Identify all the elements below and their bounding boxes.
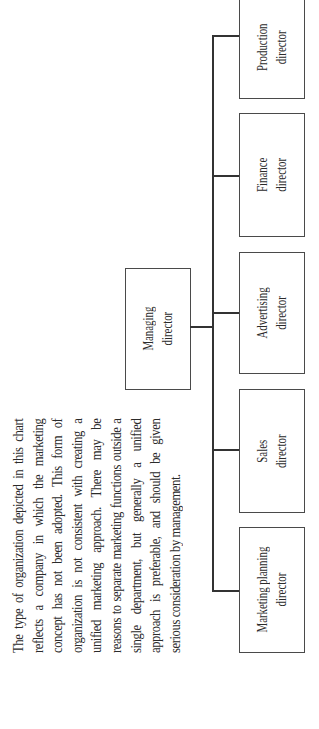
finance-director-box: Finance director xyxy=(239,113,305,237)
managing-director-box: Managing director xyxy=(125,268,191,390)
org-chart-page: The type of organization depicted in thi… xyxy=(0,0,319,729)
box-label-line2: director xyxy=(272,547,291,633)
drop-advertising xyxy=(212,312,239,314)
drop-marketing-planning xyxy=(212,590,239,592)
drop-finance xyxy=(212,175,239,177)
drop-sales xyxy=(212,449,239,451)
managing-director-line2: director xyxy=(158,307,177,351)
managing-director-line1: Managing xyxy=(139,307,158,351)
box-label-line1: Advertising xyxy=(253,287,272,338)
box-label-line1: Finance xyxy=(253,158,272,192)
box-label-line2: director xyxy=(272,434,291,468)
box-label-line1: Sales xyxy=(253,434,272,468)
box-label-line1: Marketing planning xyxy=(253,547,272,633)
advertising-director-box: Advertising director xyxy=(239,252,305,374)
production-director-box: Production director xyxy=(239,0,305,99)
box-label-line2: director xyxy=(272,158,291,192)
marketing-planning-director-box: Marketing planning director xyxy=(239,527,305,653)
sales-director-box: Sales director xyxy=(239,389,305,513)
box-label-line2: director xyxy=(272,23,291,71)
description-paragraph: The type of organization depicted in thi… xyxy=(9,419,185,653)
root-connector xyxy=(190,326,214,328)
drop-production xyxy=(212,35,239,37)
box-label-line2: director xyxy=(272,287,291,338)
box-label-line1: Production xyxy=(253,23,272,71)
